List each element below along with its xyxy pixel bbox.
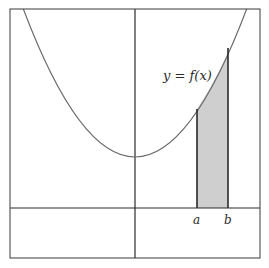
area-under-curve-diagram: y = f(x) a b <box>0 0 269 268</box>
label-b: b <box>224 213 232 227</box>
label-a: a <box>193 213 200 227</box>
curve-label: y = f(x) <box>162 68 212 83</box>
